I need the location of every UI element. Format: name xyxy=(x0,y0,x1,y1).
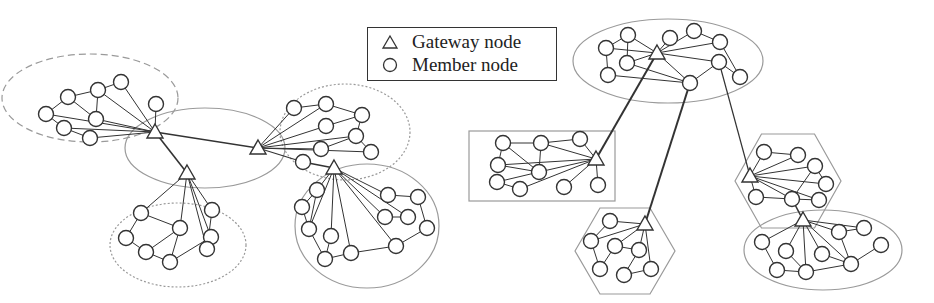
member-node xyxy=(757,145,772,160)
member-node xyxy=(344,246,359,261)
member-node xyxy=(620,56,635,71)
member-node xyxy=(644,262,659,277)
legend-label: Gateway node xyxy=(412,31,521,53)
member-node xyxy=(513,182,528,197)
member-node xyxy=(205,203,220,218)
edge-link xyxy=(331,168,334,236)
legend-item-gateway: Gateway node xyxy=(368,30,521,54)
member-node xyxy=(496,136,511,151)
member-node xyxy=(584,234,599,249)
member-node xyxy=(799,265,814,280)
member-node xyxy=(713,35,728,50)
member-node xyxy=(733,70,748,85)
member-node xyxy=(319,119,334,134)
member-node xyxy=(302,222,317,237)
member-node xyxy=(617,268,632,283)
member-node xyxy=(770,263,785,278)
member-node xyxy=(573,132,588,147)
member-node xyxy=(490,175,505,190)
member-node xyxy=(173,221,188,236)
member-node xyxy=(557,180,572,195)
edge-link xyxy=(657,53,719,62)
edge-link xyxy=(541,143,596,159)
member-node xyxy=(319,97,334,112)
edge-link xyxy=(258,136,356,148)
member-node xyxy=(683,76,698,91)
member-node xyxy=(621,28,636,43)
cluster-boundary xyxy=(110,203,246,287)
member-node xyxy=(603,214,618,229)
member-node xyxy=(593,262,608,277)
member-node xyxy=(755,235,770,250)
member-node xyxy=(89,112,104,127)
member-node xyxy=(591,178,606,193)
edge-link xyxy=(645,83,690,224)
member-node xyxy=(532,165,547,180)
gateway-node xyxy=(637,216,653,230)
member-node xyxy=(779,244,794,259)
gateway-node xyxy=(588,151,604,165)
member-node xyxy=(749,190,764,205)
member-node xyxy=(134,206,149,221)
member-node xyxy=(314,142,329,157)
gateway-node xyxy=(795,212,811,226)
legend-label: Member node xyxy=(412,54,518,76)
edge-link xyxy=(334,168,408,217)
member-node xyxy=(287,101,302,116)
edge-link xyxy=(90,132,155,138)
member-node xyxy=(808,159,823,174)
member-node xyxy=(57,121,72,136)
member-node xyxy=(601,68,616,83)
member-node xyxy=(608,239,623,254)
member-node xyxy=(163,255,178,270)
member-node xyxy=(114,75,129,90)
member-node xyxy=(832,225,847,240)
member-node xyxy=(712,55,727,70)
member-node xyxy=(296,155,311,170)
edge-link xyxy=(180,173,187,228)
member-node xyxy=(534,136,549,151)
member-node xyxy=(310,183,325,198)
edge-link xyxy=(334,168,396,246)
member-node xyxy=(39,107,54,122)
member-node xyxy=(324,229,339,244)
member-node xyxy=(687,24,702,39)
member-node xyxy=(785,192,800,207)
legend: Gateway node Member node xyxy=(367,27,557,81)
member-node xyxy=(815,247,830,262)
member-node xyxy=(318,252,333,267)
member-node xyxy=(61,90,76,105)
member-node xyxy=(599,41,614,56)
member-node xyxy=(200,242,215,257)
member-node xyxy=(812,193,827,208)
edge-link xyxy=(750,166,815,176)
edge-link xyxy=(334,168,385,217)
member-node xyxy=(857,221,872,236)
member-node xyxy=(364,145,379,160)
member-node xyxy=(420,221,435,236)
member-node xyxy=(119,231,134,246)
member-node xyxy=(663,31,678,46)
edge-link xyxy=(155,132,258,148)
member-node xyxy=(411,190,426,205)
member-node xyxy=(295,200,310,215)
member-node xyxy=(791,148,806,163)
member-node xyxy=(83,131,98,146)
member-node xyxy=(819,177,834,192)
member-node xyxy=(149,97,164,112)
member-node xyxy=(378,210,393,225)
member-node xyxy=(401,210,416,225)
legend-item-member: Member node xyxy=(368,53,518,77)
member-node xyxy=(844,257,859,272)
circle-icon xyxy=(368,56,412,74)
member-node xyxy=(91,83,106,98)
member-node xyxy=(139,245,154,260)
member-node xyxy=(389,239,404,254)
member-node xyxy=(874,238,889,253)
member-node xyxy=(349,129,364,144)
triangle-icon xyxy=(368,34,412,50)
member-node xyxy=(381,188,396,203)
member-node xyxy=(491,158,506,173)
member-node xyxy=(632,243,647,258)
member-node xyxy=(355,108,370,123)
